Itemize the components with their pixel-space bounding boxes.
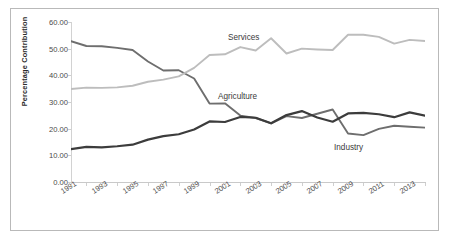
y-axis-tick-mark [68, 22, 71, 23]
x-axis-tick-mark [363, 183, 364, 186]
x-axis-tick-mark [425, 183, 426, 186]
y-axis-tick-mark [68, 155, 71, 156]
y-axis-tick-mark [68, 49, 71, 50]
x-axis-tick-mark [148, 183, 149, 186]
x-axis-tick-mark [117, 183, 118, 186]
x-axis-tick-mark [102, 183, 103, 186]
x-axis-tick-mark [394, 183, 395, 186]
series-line-services [71, 35, 425, 89]
y-axis-tick-label: 10.00 [34, 151, 68, 160]
x-axis-tick-mark [163, 183, 164, 186]
plot-area [71, 22, 425, 182]
x-axis-tick-mark [240, 183, 241, 186]
series-label-agriculture: Agriculture [218, 92, 257, 101]
x-axis-tick-mark [194, 183, 195, 186]
x-axis-tick-mark [71, 183, 72, 186]
x-axis-tick-mark [302, 183, 303, 186]
y-axis-tick-label: 60.00 [34, 18, 68, 27]
x-axis-tick-mark [348, 183, 349, 186]
series-line-agriculture [71, 41, 425, 135]
x-axis-tick-mark [210, 183, 211, 186]
x-axis-tick-mark [410, 183, 411, 186]
x-axis-tick-mark [271, 183, 272, 186]
y-axis-title: Percentage Contribution [20, 0, 29, 124]
x-axis-tick-mark [317, 183, 318, 186]
y-axis-tick-labels: 0.0010.0020.0030.0040.0050.0060.00 [32, 0, 68, 241]
series-line-industry [71, 111, 425, 149]
y-axis-tick-label: 20.00 [34, 124, 68, 133]
y-axis-tick-label: 50.00 [34, 44, 68, 53]
series-label-industry: Industry [334, 143, 363, 152]
y-axis-tick-mark [68, 129, 71, 130]
y-axis-tick-mark [68, 102, 71, 103]
x-axis-tick-mark [333, 183, 334, 186]
x-axis-tick-mark [225, 183, 226, 186]
x-axis-tick-mark [256, 183, 257, 186]
x-axis-tick-mark [86, 183, 87, 186]
y-axis-tick-label: 40.00 [34, 71, 68, 80]
series-label-services: Services [228, 33, 259, 42]
x-axis-tick-mark [179, 183, 180, 186]
y-axis-tick-mark [68, 75, 71, 76]
x-axis-tick-mark [133, 183, 134, 186]
y-axis-tick-label: 30.00 [34, 98, 68, 107]
chart-figure: Percentage Contribution 0.0010.0020.0030… [0, 0, 451, 241]
x-axis-tick-mark [379, 183, 380, 186]
series-lines [71, 22, 425, 182]
x-axis-tick-mark [286, 183, 287, 186]
